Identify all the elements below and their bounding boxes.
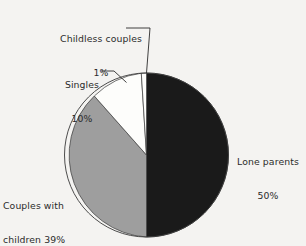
slice-label-childless-couples-name: Childless couples [49, 33, 153, 44]
slice-label-couples-with-children-line1: Couples with [3, 200, 107, 211]
slice-label-couples-with-children-line2: children 39% [3, 234, 107, 245]
slice-label-lone-parents-name: Lone parents [231, 156, 305, 167]
pie-slice-lone-parents [147, 73, 229, 237]
slice-label-singles-name: Singles [46, 79, 118, 90]
pie-chart: Childless couples 1% Singles 10% Couples… [0, 0, 306, 246]
slice-label-singles-value: 10% [46, 113, 118, 124]
slice-label-lone-parents: Lone parents 50% [231, 133, 305, 224]
slice-label-singles: Singles 10% [46, 56, 118, 147]
slice-label-lone-parents-value: 50% [231, 190, 305, 201]
slice-label-couples-with-children: Couples with children 39% [3, 177, 107, 246]
